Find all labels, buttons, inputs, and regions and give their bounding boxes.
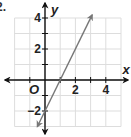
y-axis-label: y bbox=[50, 2, 59, 17]
x-tick-label: 4 bbox=[102, 83, 109, 97]
y-tick-label: 2 bbox=[34, 42, 41, 56]
x-tick-label: 2 bbox=[72, 83, 79, 97]
x-axis-label: x bbox=[121, 62, 130, 77]
y-tick-label: 4 bbox=[34, 11, 41, 25]
tick-labels: 2442−2Oxy bbox=[27, 2, 130, 118]
origin-label: O bbox=[29, 82, 39, 97]
y-tick-label: −2 bbox=[27, 104, 41, 118]
coordinate-plane: 2442−2Oxy bbox=[0, 0, 131, 137]
